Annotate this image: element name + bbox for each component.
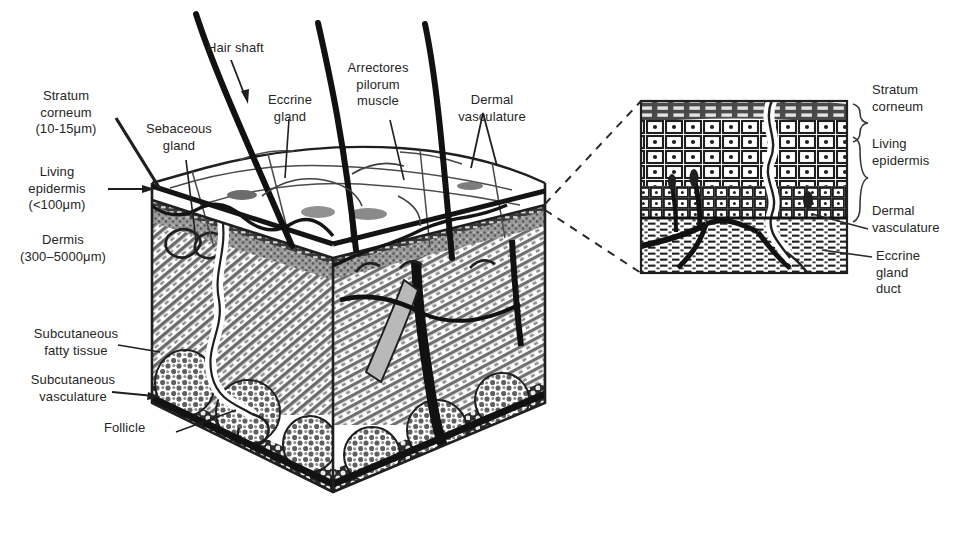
label-living-epidermis-main: Living epidermis (<100μm)	[2, 164, 112, 214]
label-eccrine-gland-duct-inset: Eccrine gland duct	[876, 248, 966, 298]
label-hair-shaft: Hair shaft	[207, 40, 311, 57]
label-living-epidermis-inset: Living epidermis	[872, 136, 966, 169]
inset-brackets	[853, 104, 868, 222]
magnifier-connector-lines	[545, 101, 641, 273]
label-eccrine-gland: Eccrine gland	[246, 92, 334, 125]
label-dermal-vasculature-main: Dermal vasculature	[440, 92, 544, 125]
epidermis-inset-illustration	[641, 98, 872, 274]
label-stratum-corneum-inset: Stratum corneum	[872, 82, 966, 115]
skin-anatomy-figure: Stratum corneum (10-15μm) Living epiderm…	[0, 0, 969, 533]
label-dermis: Dermis (300–5000μm)	[2, 232, 124, 265]
label-sebaceous-gland: Sebaceous gland	[124, 121, 234, 154]
figure-canvas	[0, 0, 969, 533]
block-right-face	[330, 200, 555, 510]
label-stratum-corneum-main: Stratum corneum (10-15μm)	[6, 88, 126, 138]
label-arrectores-pilorum-muscle: Arrectores pilorum muscle	[330, 60, 426, 110]
label-follicle: Follicle	[104, 420, 184, 437]
label-dermal-vasculature-inset: Dermal vasculature	[872, 203, 969, 236]
label-subcutaneous-vasculature: Subcutaneous vasculature	[14, 372, 132, 405]
label-subcutaneous-fatty-tissue: Subcutaneous fatty tissue	[16, 326, 136, 359]
